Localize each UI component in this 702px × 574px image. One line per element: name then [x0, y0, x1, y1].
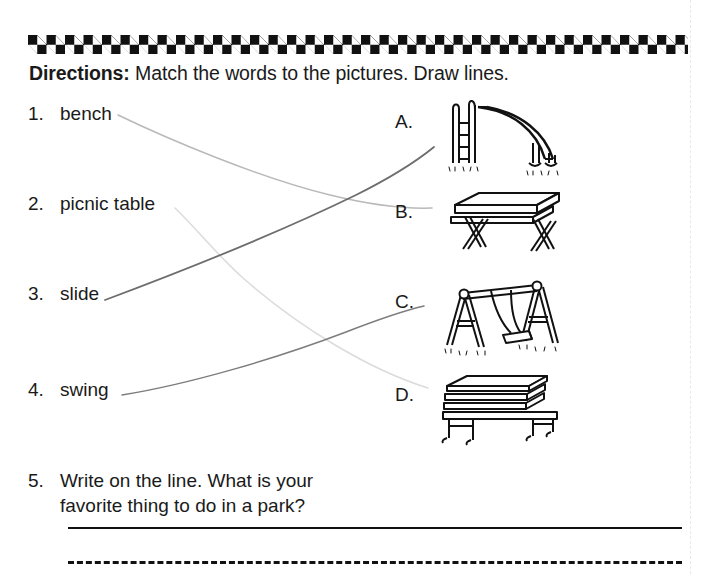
picture-item-C[interactable]: C.	[395, 277, 695, 363]
word-label: slide	[60, 283, 99, 304]
page-fold-guide	[690, 0, 691, 574]
picture-item-B[interactable]: B.	[395, 187, 695, 273]
picnic-table-icon	[433, 187, 573, 257]
directions-line: Directions: Match the words to the pictu…	[29, 62, 509, 85]
picture-item-A[interactable]: A.	[395, 97, 695, 183]
question-5-line-1: Write on the line. What is your	[60, 468, 448, 493]
word-label: bench	[60, 103, 112, 124]
word-item-3[interactable]: 3.slide	[28, 283, 328, 305]
word-number: 4.	[28, 379, 60, 401]
question-5-line-2: favorite thing to do in a park?	[60, 493, 448, 518]
word-label: picnic table	[60, 193, 155, 214]
matching-area: 1.bench 2.picnic table 3.slide 4.swing A…	[0, 95, 702, 445]
park-bench-icon	[433, 370, 573, 446]
slide-icon	[433, 97, 573, 177]
picture-letter: B.	[395, 201, 413, 223]
worksheet-page: Directions: Match the words to the pictu…	[0, 0, 702, 574]
word-item-1[interactable]: 1.bench	[28, 103, 328, 125]
word-number: 3.	[28, 283, 60, 305]
word-label: swing	[60, 379, 109, 400]
word-item-4[interactable]: 4.swing	[28, 379, 328, 401]
writing-line-dashed[interactable]	[68, 561, 682, 564]
decorative-diamond-border	[28, 35, 688, 54]
picture-letter: C.	[395, 291, 414, 313]
word-item-2[interactable]: 2.picnic table	[28, 193, 328, 215]
question-5-number: 5.	[28, 468, 44, 493]
word-number: 1.	[28, 103, 60, 125]
swing-icon	[433, 277, 573, 359]
word-number: 2.	[28, 193, 60, 215]
directions-text: Match the words to the pictures. Draw li…	[135, 62, 509, 84]
picture-letter: A.	[395, 111, 413, 133]
picture-item-D[interactable]: D.	[395, 370, 695, 456]
picture-letter: D.	[395, 384, 414, 406]
question-5: 5. Write on the line. What is your favor…	[28, 468, 448, 518]
directions-label: Directions:	[29, 62, 130, 84]
writing-line-solid[interactable]	[68, 527, 682, 529]
